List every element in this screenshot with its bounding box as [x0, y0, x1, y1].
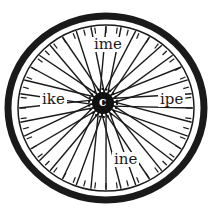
word-right: ipe [158, 92, 185, 107]
word-left: ike [40, 92, 67, 107]
word-top: ime [92, 37, 124, 52]
word-bottom: ine [112, 152, 139, 167]
hub-letter: c [99, 96, 106, 108]
